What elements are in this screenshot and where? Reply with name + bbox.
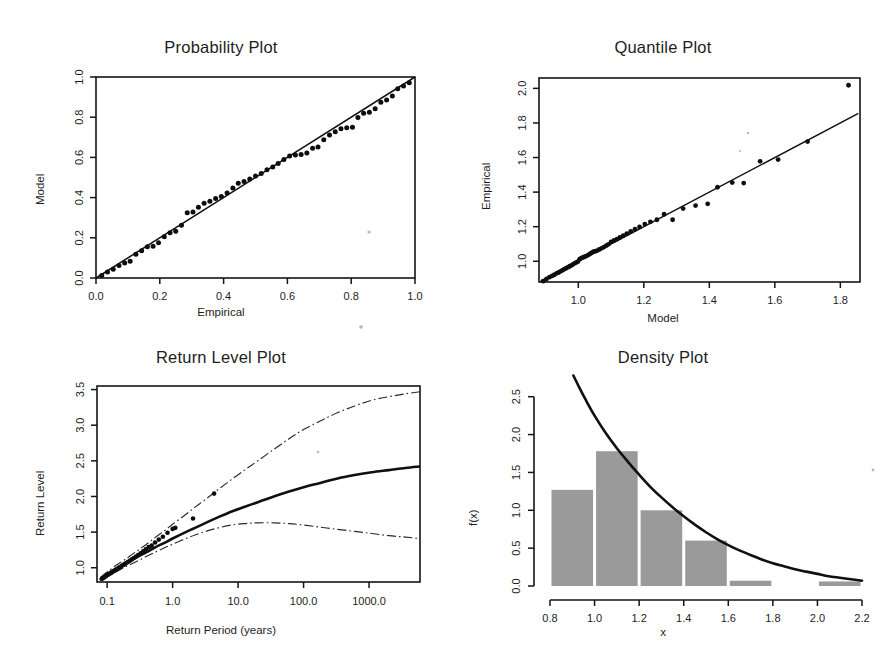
y-tick-label: 1.0 (510, 503, 522, 518)
data-point (253, 173, 258, 178)
y-tick-label: 2.0 (516, 81, 528, 96)
data-point (350, 125, 355, 130)
quantile-plot-xlabel: Model (442, 312, 884, 324)
y-tick-label: 2.0 (510, 427, 522, 442)
x-tick-label: 0.8 (542, 612, 557, 624)
data-point (407, 80, 412, 85)
histogram-bar (819, 581, 861, 586)
data-point (162, 234, 167, 239)
data-point (637, 225, 642, 230)
data-point (741, 181, 746, 186)
y-tick-label: 1.6 (516, 150, 528, 165)
return-level-curves (100, 392, 420, 581)
data-point (281, 157, 286, 162)
y-tick-label: 2.0 (74, 489, 86, 504)
data-point (202, 201, 207, 206)
data-point (173, 526, 178, 531)
x-tick-label: 1.8 (833, 294, 848, 306)
x-tick-label: 1.6 (721, 612, 736, 624)
data-point (111, 267, 116, 272)
y-tick-label: 0.4 (73, 190, 85, 205)
data-point (662, 212, 667, 217)
data-point (168, 230, 173, 235)
data-point (310, 146, 315, 151)
histogram-bar (641, 510, 683, 586)
data-point (139, 248, 144, 253)
data-point (395, 86, 400, 91)
quantile-plot-canvas: 1.01.21.41.61.81.01.21.41.61.82.0 (442, 20, 884, 336)
probability-plot-points (99, 80, 412, 278)
y-tick-label: 3.5 (74, 382, 86, 397)
data-point (276, 161, 281, 166)
x-tick-label: 1.6 (767, 294, 782, 306)
data-point (333, 129, 338, 134)
x-tick-label: 0.8 (344, 290, 359, 302)
y-tick-label: 0.5 (510, 540, 522, 555)
x-tick-label: 1.2 (631, 612, 646, 624)
data-point (151, 244, 156, 249)
data-point (655, 217, 660, 222)
data-point (236, 181, 241, 186)
data-point (219, 194, 224, 199)
data-point (670, 217, 675, 222)
histogram-bar (596, 451, 638, 586)
x-tick-label: 1.0 (165, 595, 180, 607)
data-point (705, 201, 710, 206)
data-point (225, 190, 230, 195)
panel-quantile-plot: Quantile Plot 1.01.21.41.61.81.01.21.41.… (442, 20, 884, 336)
x-tick-label: 0.0 (88, 290, 103, 302)
data-point (179, 223, 184, 228)
data-point (156, 240, 161, 245)
data-point (681, 206, 686, 211)
histogram-bar (730, 581, 772, 586)
y-tick-label: 1.4 (516, 184, 528, 199)
x-tick-label: 1.4 (676, 612, 691, 624)
panel-probability-plot: Probability Plot 0.00.20.40.60.81.00.00.… (0, 20, 442, 336)
data-point (316, 144, 321, 149)
data-point (287, 153, 292, 158)
x-tick-label: 1000.0 (352, 595, 386, 607)
data-point (628, 229, 633, 234)
x-tick-label: 1.0 (571, 294, 586, 306)
data-point (299, 152, 304, 157)
quantile-plot-points (541, 83, 851, 284)
x-tick-label: 0.6 (280, 290, 295, 302)
data-point (390, 94, 395, 99)
density-histogram (552, 451, 861, 586)
data-point (207, 199, 212, 204)
data-point (693, 203, 698, 208)
panel-density-plot: Density Plot 0.81.01.21.41.61.82.02.20.0… (442, 336, 884, 672)
y-tick-label: 2.5 (510, 389, 522, 404)
data-point (401, 84, 406, 89)
data-point (355, 115, 360, 120)
data-point (373, 106, 378, 111)
y-tick-label: 3.0 (74, 418, 86, 433)
data-point (213, 196, 218, 201)
y-tick-label: 2.5 (74, 453, 86, 468)
data-point (133, 252, 138, 257)
x-tick-label: 10.0 (227, 595, 248, 607)
y-tick-label: 0.0 (510, 578, 522, 593)
data-point (264, 167, 269, 172)
data-point (149, 543, 154, 548)
data-point (304, 150, 309, 155)
y-tick-label: 1.0 (516, 254, 528, 269)
gev-diagnostic-figure: Probability Plot 0.00.20.40.60.81.00.00.… (0, 0, 884, 672)
return-level-plot-xlabel: Return Period (years) (0, 624, 442, 636)
data-point (161, 534, 166, 539)
data-point (648, 219, 653, 224)
x-tick-label: 100.0 (290, 595, 318, 607)
return-level-plot-canvas: 0.11.010.0100.01000.01.01.52.02.53.03.5 (0, 336, 442, 672)
data-point (378, 100, 383, 105)
data-point (196, 205, 201, 210)
density-plot-ylabel: f(x) (467, 509, 479, 526)
data-point (338, 126, 343, 131)
density-plot-xlabel: x (442, 626, 884, 638)
y-tick-label: 0.8 (73, 110, 85, 125)
data-point (293, 152, 298, 157)
x-tick-label: 1.0 (587, 612, 602, 624)
y-tick-label: 0.6 (73, 150, 85, 165)
data-point (846, 83, 851, 88)
data-point (776, 157, 781, 162)
data-point (99, 273, 104, 278)
